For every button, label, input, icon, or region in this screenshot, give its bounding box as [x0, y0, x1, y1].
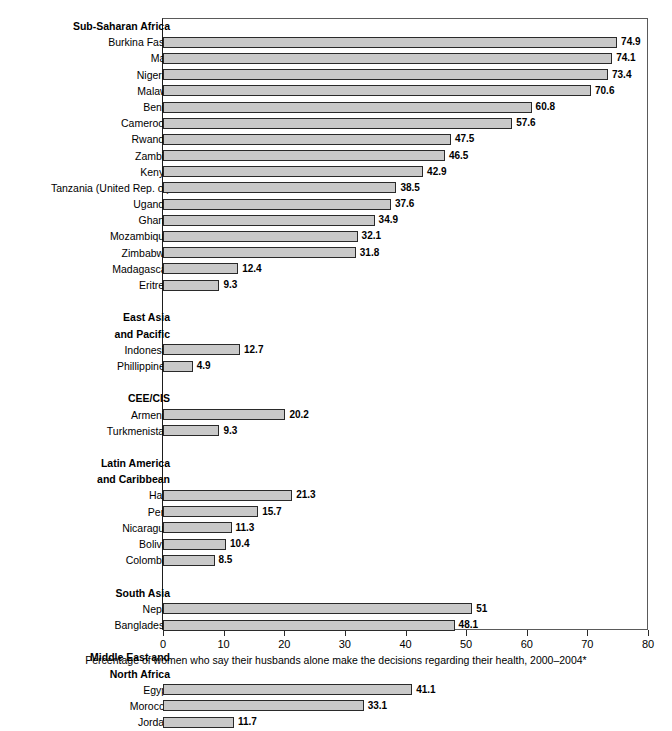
- bar[interactable]: [163, 522, 232, 533]
- bar-category-label: Burkina Faso: [108, 34, 170, 50]
- bar-value-label: 12.7: [244, 342, 263, 358]
- group-header-label: North Africa: [110, 666, 170, 682]
- x-axis-tick-label: 70: [581, 638, 593, 650]
- bar[interactable]: [163, 166, 423, 177]
- bar-value-label: 31.8: [360, 245, 379, 261]
- x-axis-tick-label: 80: [642, 638, 654, 650]
- bar-wrapper: 41.1: [163, 682, 672, 698]
- bar-value-label: 8.5: [219, 552, 233, 568]
- bar[interactable]: [163, 425, 219, 436]
- x-axis-tick-label: 50: [460, 638, 472, 650]
- bar-row: Turkmenistan9.3: [0, 423, 672, 439]
- group-header-row: South Asia: [0, 585, 672, 601]
- bar[interactable]: [163, 37, 617, 48]
- bar[interactable]: [163, 506, 258, 517]
- bar[interactable]: [163, 490, 292, 501]
- bar[interactable]: [163, 603, 472, 614]
- bar-wrapper: 74.9: [163, 34, 672, 50]
- bar-row: Bolivia10.4: [0, 536, 672, 552]
- bar-value-label: 10.4: [230, 536, 249, 552]
- bar[interactable]: [163, 182, 396, 193]
- x-axis-tick: [587, 630, 588, 636]
- x-axis-tick-label: 30: [339, 638, 351, 650]
- bar-value-label: 47.5: [455, 131, 474, 147]
- bar-wrapper: 37.6: [163, 196, 672, 212]
- bar-row: Mozambique32.1: [0, 228, 672, 244]
- bar[interactable]: [163, 134, 451, 145]
- bar[interactable]: [163, 263, 238, 274]
- bar-wrapper: 11.7: [163, 714, 672, 730]
- bar-rows-container: Sub-Saharan AfricaBurkina Faso74.9Mali74…: [0, 18, 672, 730]
- bar-row: Cameroon57.6: [0, 115, 672, 131]
- bar-wrapper: 34.9: [163, 212, 672, 228]
- x-axis-tick: [345, 630, 346, 636]
- bar-value-label: 42.9: [427, 164, 446, 180]
- bar[interactable]: [163, 199, 391, 210]
- x-axis-tick-label: 20: [278, 638, 290, 650]
- group-header-label: CEE/CIS: [128, 390, 170, 406]
- bar-wrapper: 32.1: [163, 228, 672, 244]
- bar-row: Benin60.8: [0, 99, 672, 115]
- bar-value-label: 38.5: [400, 180, 419, 196]
- bar[interactable]: [163, 118, 512, 129]
- group-header-label: South Asia: [116, 585, 170, 601]
- group-header-label: East Asia: [123, 309, 170, 325]
- bar-wrapper: 51: [163, 601, 672, 617]
- bar[interactable]: [163, 684, 412, 695]
- bar[interactable]: [163, 361, 193, 372]
- bar-row: Burkina Faso74.9: [0, 34, 672, 50]
- bar-value-label: 51: [476, 601, 487, 617]
- group-header-label: Latin America: [101, 455, 170, 471]
- bar[interactable]: [163, 102, 532, 113]
- bar[interactable]: [163, 555, 215, 566]
- group-header-row: CEE/CIS: [0, 390, 672, 406]
- bar[interactable]: [163, 717, 234, 728]
- bar-value-label: 11.3: [236, 520, 255, 536]
- x-axis-tick-label: 40: [399, 638, 411, 650]
- group-header-row: and Pacific: [0, 326, 672, 342]
- x-axis-tick: [284, 630, 285, 636]
- bar[interactable]: [163, 280, 219, 291]
- group-spacer-row: [0, 374, 672, 390]
- bar[interactable]: [163, 539, 226, 550]
- bar-wrapper: 70.6: [163, 83, 672, 99]
- bar-row: Uganda37.6: [0, 196, 672, 212]
- bar-value-label: 73.4: [612, 67, 631, 83]
- bar-row: Nepal51: [0, 601, 672, 617]
- bar[interactable]: [163, 247, 356, 258]
- bar-value-label: 11.7: [238, 714, 257, 730]
- bar[interactable]: [163, 150, 445, 161]
- bar-row: Haiti21.3: [0, 487, 672, 503]
- bar-value-label: 9.3: [223, 277, 237, 293]
- x-axis-tick-label: 10: [218, 638, 230, 650]
- x-axis-tick: [224, 630, 225, 636]
- group-spacer-row: [0, 293, 672, 309]
- bar[interactable]: [163, 215, 375, 226]
- bar[interactable]: [163, 231, 358, 242]
- bar-row: Armenia20.2: [0, 407, 672, 423]
- bar[interactable]: [163, 620, 455, 631]
- bar-value-label: 74.1: [616, 50, 635, 66]
- bar-wrapper: 46.5: [163, 148, 672, 164]
- group-header-label: and Caribbean: [97, 471, 170, 487]
- bar-value-label: 9.3: [223, 423, 237, 439]
- bar[interactable]: [163, 409, 285, 420]
- bar-row: Mali74.1: [0, 50, 672, 66]
- bar[interactable]: [163, 69, 608, 80]
- group-spacer-row: [0, 439, 672, 455]
- bar[interactable]: [163, 85, 591, 96]
- bar[interactable]: [163, 53, 612, 64]
- bar[interactable]: [163, 700, 364, 711]
- bar-row: Jordan11.7: [0, 714, 672, 730]
- bar-wrapper: 42.9: [163, 164, 672, 180]
- bar-wrapper: 10.4: [163, 536, 672, 552]
- group-spacer-row: [0, 568, 672, 584]
- bar-row: Indonesia12.7: [0, 342, 672, 358]
- bar-value-label: 32.1: [362, 228, 381, 244]
- x-axis-tick: [406, 630, 407, 636]
- bar-wrapper: 4.9: [163, 358, 672, 374]
- bar-value-label: 37.6: [395, 196, 414, 212]
- bar[interactable]: [163, 344, 240, 355]
- bar-wrapper: 38.5: [163, 180, 672, 196]
